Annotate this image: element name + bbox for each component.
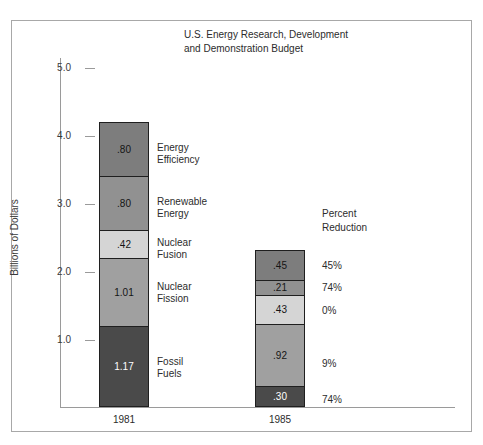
y-axis-line [60, 58, 61, 408]
percent-reduction-nuclear-fusion: 0% [322, 306, 362, 316]
segment-label-renewable-energy: Renewable Energy [157, 196, 207, 220]
segment-value: 1.17 [114, 362, 133, 372]
segment-value: .30 [273, 392, 287, 402]
y-tick-2: 2.0 [24, 272, 71, 273]
percent-reduction-header: Percent Reduction [322, 207, 367, 235]
y-tick-mark-3 [85, 204, 95, 205]
y-tick-label-4: 4.0 [43, 131, 71, 141]
segment-value: .21 [273, 283, 287, 293]
y-tick-1: 1.0 [24, 340, 71, 341]
segment-fossil-fuels-1985[interactable]: .30 [255, 386, 305, 407]
y-tick-mark-2 [85, 272, 95, 273]
y-axis-title: Billions of Dollars [9, 178, 20, 298]
percent-reduction-renewable-energy: 74% [322, 283, 362, 293]
y-tick-mark-5 [85, 68, 95, 69]
percent-reduction-energy-efficiency: 45% [322, 261, 362, 271]
chart-plot-area: U.S. Energy Research, Development and De… [0, 0, 483, 445]
y-tick-5: 5.0 [24, 68, 71, 69]
segment-value: 1.01 [114, 288, 133, 298]
x-axis-line [60, 407, 455, 408]
chart-title: U.S. Energy Research, Development and De… [184, 28, 348, 56]
segment-nuclear-fusion-1985[interactable]: .43 [255, 295, 305, 325]
segment-label-nuclear-fission: Nuclear Fission [157, 281, 191, 305]
y-tick-mark-4 [85, 136, 95, 137]
percent-reduction-nuclear-fission: 9% [322, 359, 362, 369]
y-tick-mark-1 [85, 340, 95, 341]
segment-renewable-energy-1981[interactable]: .80 [99, 176, 149, 231]
segment-fossil-fuels-1981[interactable]: 1.17 [99, 326, 149, 407]
bar-1981[interactable]: .80 .80 .42 1.01 1.17 [99, 122, 149, 407]
segment-value: .42 [117, 240, 131, 250]
segment-renewable-energy-1985[interactable]: .21 [255, 280, 305, 296]
percent-reduction-fossil-fuels: 74% [322, 395, 362, 405]
segment-value: .45 [273, 261, 287, 271]
segment-value: .43 [273, 305, 287, 315]
x-axis-label-1985: 1985 [240, 414, 320, 425]
segment-energy-efficiency-1985[interactable]: .45 [255, 250, 305, 281]
segment-nuclear-fission-1981[interactable]: 1.01 [99, 258, 149, 327]
bar-1985[interactable]: .45 .21 .43 .92 .30 [255, 250, 305, 407]
segment-nuclear-fusion-1981[interactable]: .42 [99, 230, 149, 259]
y-tick-4: 4.0 [24, 136, 71, 137]
segment-value: .80 [117, 199, 131, 209]
y-tick-label-1: 1.0 [43, 335, 71, 345]
y-tick-label-5: 5.0 [43, 63, 71, 73]
y-tick-label-2: 2.0 [43, 267, 71, 277]
segment-energy-efficiency-1981[interactable]: .80 [99, 122, 149, 177]
segment-label-fossil-fuels: Fossil Fuels [157, 356, 183, 380]
segment-label-nuclear-fusion: Nuclear Fusion [157, 237, 191, 261]
segment-value: .92 [273, 351, 287, 361]
x-axis-label-1981: 1981 [84, 414, 164, 425]
y-tick-3: 3.0 [24, 204, 71, 205]
y-tick-label-3: 3.0 [43, 199, 71, 209]
segment-value: .80 [117, 145, 131, 155]
segment-nuclear-fission-1985[interactable]: .92 [255, 324, 305, 387]
segment-label-energy-efficiency: Energy Efficiency [157, 142, 200, 166]
